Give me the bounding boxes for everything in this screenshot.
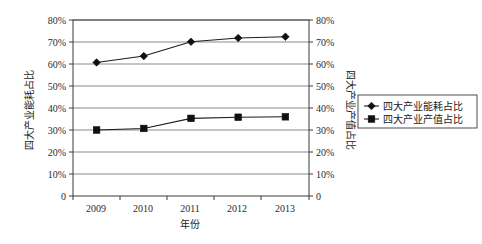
x-axis-title: 年份 — [180, 218, 200, 230]
left-tick-label: 60% — [48, 59, 66, 70]
right-axis-title: 四大产业产值占比 — [345, 70, 357, 150]
x-tick-label: 2012 — [227, 203, 247, 214]
right-tick-label: 20% — [316, 147, 334, 158]
left-tick-label: 50% — [48, 81, 66, 92]
data-point-square — [93, 127, 100, 134]
left-axis-title: 四大产业能耗占比 — [23, 70, 35, 150]
chart-container: 80% 70% 60% 50% 40% 30% 20% 10% 0 80% 70… — [0, 0, 482, 244]
legend-label-1: 四大产业能耗占比 — [383, 100, 463, 112]
right-tick-label: 70% — [316, 37, 334, 48]
x-tick-label: 2011 — [180, 203, 200, 214]
right-tick-label: 0 — [316, 191, 321, 202]
right-tick-label: 80% — [316, 15, 334, 26]
x-tick-label: 2013 — [275, 203, 295, 214]
right-tick-label: 50% — [316, 81, 334, 92]
left-tick-label: 10% — [48, 169, 66, 180]
left-tick-label: 20% — [48, 147, 66, 158]
right-tick-label: 10% — [316, 169, 334, 180]
line-chart: 80% 70% 60% 50% 40% 30% 20% 10% 0 80% 70… — [0, 0, 482, 244]
right-tick-label: 30% — [316, 125, 334, 136]
x-tick-label: 2009 — [86, 203, 106, 214]
data-point-square — [235, 114, 242, 121]
right-tick-label: 40% — [316, 103, 334, 114]
square-icon — [368, 116, 375, 123]
left-tick-label: 70% — [48, 37, 66, 48]
data-point-square — [282, 114, 289, 121]
data-point-square — [141, 125, 148, 132]
chart-legend: 四大产业能耗占比 四大产业产值占比 — [358, 95, 477, 128]
left-tick-label: 30% — [48, 125, 66, 136]
right-axis-tick-labels: 80% 70% 60% 50% 40% 30% 20% 10% 0 — [316, 15, 334, 202]
left-tick-label: 80% — [48, 15, 66, 26]
data-point-square — [188, 115, 195, 122]
x-tick-label: 2010 — [133, 203, 153, 214]
right-tick-label: 60% — [316, 59, 334, 70]
left-axis-tick-labels: 80% 70% 60% 50% 40% 30% 20% 10% 0 — [48, 15, 66, 202]
legend-label-2: 四大产业产值占比 — [383, 113, 463, 125]
left-tick-label: 40% — [48, 103, 66, 114]
left-tick-label: 0 — [61, 191, 66, 202]
